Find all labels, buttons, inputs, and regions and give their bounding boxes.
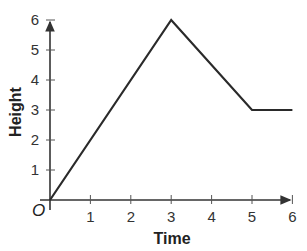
x-tick-label: 1 bbox=[86, 208, 94, 225]
x-tick-label: 3 bbox=[167, 208, 175, 225]
y-tick-label: 2 bbox=[31, 131, 39, 148]
y-tick-label: 6 bbox=[31, 11, 39, 28]
x-tick-label: 4 bbox=[207, 208, 215, 225]
height-line bbox=[50, 20, 292, 200]
y-tick-label: 3 bbox=[31, 101, 39, 118]
x-axis-title: Time bbox=[153, 230, 190, 247]
y-tick-label: 4 bbox=[31, 71, 39, 88]
axes bbox=[40, 22, 290, 210]
y-tick-label: 1 bbox=[31, 161, 39, 178]
y-axis-title: Height bbox=[7, 86, 24, 136]
y-tick-label: 5 bbox=[31, 41, 39, 58]
x-tick-label: 5 bbox=[248, 208, 256, 225]
x-tick-label: 2 bbox=[127, 208, 135, 225]
origin-label: O bbox=[32, 201, 45, 220]
x-tick-label: 6 bbox=[288, 208, 296, 225]
y-ticks: 123456 bbox=[31, 11, 55, 178]
chart: 123456 123456 O Time Height bbox=[0, 0, 307, 251]
